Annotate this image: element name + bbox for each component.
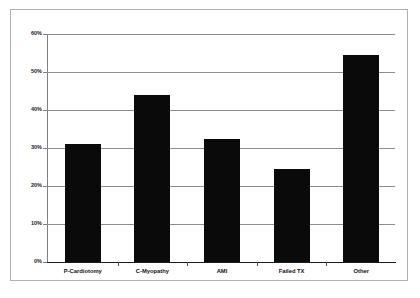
y-axis-tick-label: 0% bbox=[34, 259, 42, 265]
bar-slot bbox=[257, 34, 327, 262]
y-axis-tick-mark bbox=[43, 34, 47, 35]
bar[interactable] bbox=[65, 144, 101, 262]
y-axis-tick-mark bbox=[43, 186, 47, 187]
y-axis-tick-label: 60% bbox=[31, 31, 42, 37]
y-axis-tick-label: 40% bbox=[31, 107, 42, 113]
y-axis-tick-mark bbox=[43, 110, 47, 111]
x-axis-category-label: AMI bbox=[217, 269, 228, 275]
x-axis-category-label: P-Cardiotomy bbox=[64, 269, 102, 275]
bar[interactable] bbox=[274, 169, 310, 262]
y-axis-tick-label: 50% bbox=[31, 69, 42, 75]
x-axis-tick-mark bbox=[326, 262, 327, 266]
bar-slot bbox=[187, 34, 257, 262]
chart-frame: 0%10%20%30%40%50%60% P-CardiotomyC-Myopa… bbox=[10, 9, 408, 281]
x-axis-category-label: Failed TX bbox=[279, 269, 305, 275]
y-axis-tick-label: 30% bbox=[31, 145, 42, 151]
x-axis-category-label: C-Myopathy bbox=[136, 269, 169, 275]
bars-group bbox=[48, 34, 396, 262]
y-axis-tick-labels: 0%10%20%30%40%50%60% bbox=[11, 10, 42, 282]
bar[interactable] bbox=[134, 95, 170, 262]
y-axis-tick-mark bbox=[43, 148, 47, 149]
x-axis-tick-mark bbox=[257, 262, 258, 266]
x-axis-line bbox=[47, 262, 396, 263]
bar[interactable] bbox=[343, 55, 379, 262]
y-axis-tick-mark bbox=[43, 72, 47, 73]
y-axis-tick-mark bbox=[43, 262, 47, 263]
bar[interactable] bbox=[204, 139, 240, 263]
x-axis-category-label: Other bbox=[353, 269, 368, 275]
bar-slot bbox=[326, 34, 396, 262]
bar-slot bbox=[48, 34, 118, 262]
x-axis-tick-mark bbox=[187, 262, 188, 266]
bar-slot bbox=[118, 34, 188, 262]
y-axis-tick-label: 20% bbox=[31, 183, 42, 189]
y-axis-tick-mark bbox=[43, 224, 47, 225]
x-axis-category-labels: P-CardiotomyC-MyopathyAMIFailed TXOther bbox=[48, 266, 396, 280]
y-axis-tick-label: 10% bbox=[31, 221, 42, 227]
x-axis-tick-mark bbox=[118, 262, 119, 266]
